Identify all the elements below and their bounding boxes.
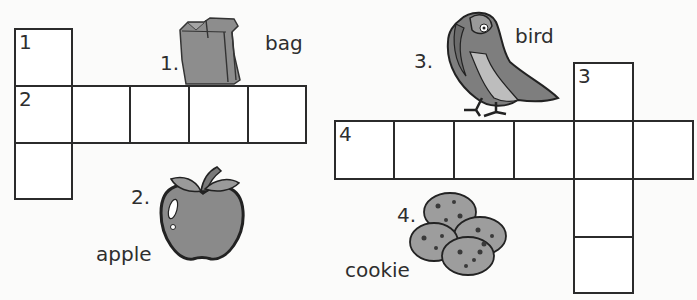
clue-number-2: 2 — [19, 88, 32, 110]
paper-bag-icon — [176, 14, 258, 86]
bird-icon — [436, 6, 566, 118]
apple-icon — [155, 165, 250, 265]
grid-cell-2-across-5[interactable] — [247, 85, 307, 144]
clue-3-word: bird — [515, 24, 554, 48]
clue-3-number: 3. — [414, 49, 433, 73]
clue-1-word: bag — [265, 31, 303, 55]
grid-cell-2-across-2[interactable] — [71, 85, 131, 144]
grid-cell-2-across-1[interactable]: 2 — [14, 85, 73, 144]
grid-cell-1-down-3[interactable] — [14, 142, 73, 200]
grid-cell-4-across-3[interactable] — [453, 120, 515, 180]
grid-cell-4-across-2[interactable] — [393, 120, 455, 180]
grid-cell-3-down-4[interactable] — [573, 236, 634, 294]
clue-number-3: 3 — [578, 65, 591, 87]
grid-cell-4-across-5[interactable] — [573, 120, 634, 180]
grid-cell-4-across-1[interactable]: 4 — [334, 120, 395, 180]
clue-2-number: 2. — [131, 185, 150, 209]
grid-cell-4-across-6[interactable] — [632, 120, 694, 180]
clue-number-4: 4 — [339, 123, 352, 145]
cookies-icon — [408, 190, 508, 276]
grid-cell-2-across-3[interactable] — [129, 85, 190, 144]
clue-4-word: cookie — [345, 258, 410, 282]
grid-cell-3-down-3[interactable] — [573, 178, 634, 238]
grid-cell-3-down-1[interactable]: 3 — [573, 62, 634, 122]
clue-number-1: 1 — [19, 31, 32, 53]
grid-cell-1-down-1[interactable]: 1 — [14, 28, 73, 87]
grid-cell-4-across-4[interactable] — [513, 120, 575, 180]
grid-cell-2-across-4[interactable] — [188, 85, 249, 144]
clue-2-word: apple — [96, 242, 152, 266]
